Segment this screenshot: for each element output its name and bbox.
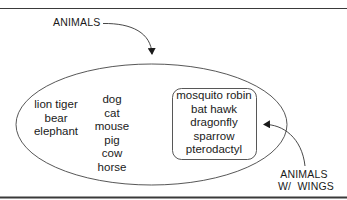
winged-animals-arrow (264, 124, 305, 166)
list-item: dragonfly (176, 116, 251, 130)
list-item: bear (34, 112, 78, 126)
list-item: bat hawk (176, 103, 251, 117)
list-item: elephant (34, 125, 78, 139)
list-item: cat (95, 107, 130, 121)
animals-label: ANIMALS (53, 16, 101, 28)
list-item: pterodactyl (176, 143, 251, 157)
list-item: mouse (95, 120, 130, 134)
list-item: cow (95, 147, 130, 161)
list-item: lion tiger (34, 98, 78, 112)
list-item: pig (95, 134, 130, 148)
winged-animals-label: ANIMALS W/ WINGS (278, 168, 330, 192)
group-large-animals: lion tiger bear elephant (34, 98, 78, 139)
group-domestic-animals: dog cat mouse pig cow horse (95, 93, 130, 175)
list-item: horse (95, 161, 130, 175)
list-item: mosquito robin (176, 89, 251, 103)
winged-animals-label-line2: W/ WINGS (278, 180, 330, 192)
list-item: sparrow (176, 130, 251, 144)
list-item: dog (95, 93, 130, 107)
group-winged-animals: mosquito robin bat hawk dragonfly sparro… (176, 89, 251, 157)
animals-arrow (103, 23, 152, 54)
winged-animals-label-line1: ANIMALS (278, 168, 330, 180)
